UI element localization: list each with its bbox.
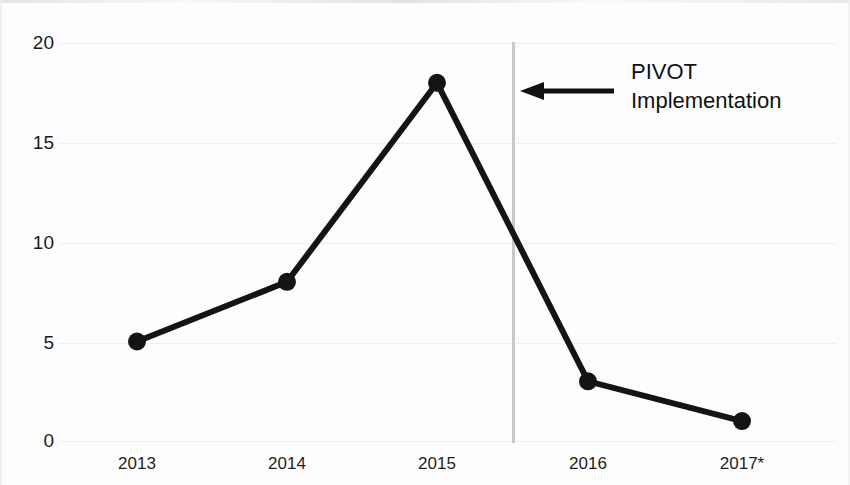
data-point-2015	[428, 74, 446, 92]
data-point-2017	[733, 412, 751, 430]
x-tick-label-2017: 2017*	[682, 455, 802, 472]
x-tick-label-2016: 2016	[528, 455, 648, 472]
series-line-layer	[0, 0, 850, 485]
pivot-annotation-line-2: Implementation	[631, 86, 781, 115]
pivot-annotation-arrow	[518, 78, 618, 104]
pivot-annotation-line-1: PIVOT	[631, 57, 697, 86]
x-tick-label-2015: 2015	[377, 455, 497, 472]
data-point-2013	[128, 333, 146, 351]
data-point-2016	[579, 372, 597, 390]
line-chart: 20 15 10 5 0 PIVOT Implementation 2013 2…	[0, 0, 850, 485]
plot-area: 20 15 10 5 0 PIVOT Implementation 2013 2…	[0, 0, 850, 485]
x-tick-label-2014: 2014	[227, 455, 347, 472]
x-tick-label-2013: 2013	[77, 455, 197, 472]
data-point-2014	[278, 273, 296, 291]
series-polyline	[137, 83, 742, 421]
